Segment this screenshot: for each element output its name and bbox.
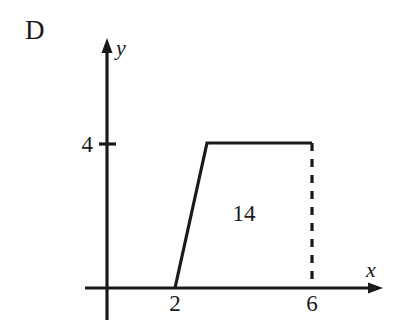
region-area-label: 14 — [230, 202, 258, 225]
x-tick-label-6: 6 — [303, 292, 321, 315]
x-axis-arrowhead-icon — [368, 283, 383, 294]
y-axis-label: y — [116, 37, 126, 59]
figure-container: D y x 4 2 6 14 — [0, 0, 397, 333]
x-tick-label-2: 2 — [166, 292, 184, 315]
x-axis-label: x — [366, 259, 376, 281]
y-axis-arrowhead-icon — [102, 38, 113, 53]
panel-letter: D — [25, 17, 45, 44]
coordinate-plane-graphic — [0, 0, 397, 333]
y-tick-label-4: 4 — [77, 133, 93, 156]
